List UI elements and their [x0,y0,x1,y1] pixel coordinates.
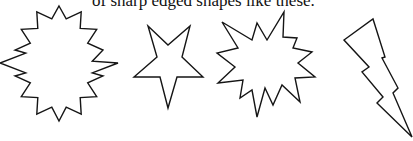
shapes-figure [0,0,413,141]
explosion-shape [217,12,315,117]
star-shape [134,26,203,108]
lightning-bolt-shape [344,19,412,137]
starburst-shape [0,6,118,121]
